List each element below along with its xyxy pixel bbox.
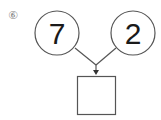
answer-box[interactable] bbox=[78, 77, 116, 115]
arrow-down-icon bbox=[93, 70, 99, 75]
number-bond-diagram: 7 2 bbox=[0, 0, 161, 120]
left-circle-value: 7 bbox=[49, 17, 66, 50]
right-connector-line bbox=[96, 48, 116, 65]
left-circle: 7 bbox=[35, 11, 79, 55]
right-circle: 2 bbox=[111, 11, 155, 55]
right-circle-value: 2 bbox=[125, 17, 142, 50]
left-connector-line bbox=[75, 48, 96, 65]
